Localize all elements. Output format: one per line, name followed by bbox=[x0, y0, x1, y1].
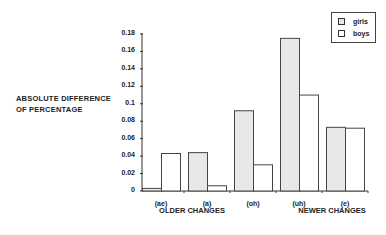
y-tick-label: 0.1 bbox=[105, 99, 135, 106]
legend-swatch-girls bbox=[338, 18, 345, 25]
y-tick-label: 0.18 bbox=[105, 29, 135, 36]
bar-boys bbox=[254, 165, 273, 191]
bar-girls bbox=[327, 127, 346, 191]
y-tick-label: 0.02 bbox=[105, 169, 135, 176]
y-tick-label: 0.08 bbox=[105, 116, 135, 123]
y-tick-label: 0.14 bbox=[105, 64, 135, 71]
group-label-older: OLDER CHANGES bbox=[132, 206, 252, 215]
legend-label-girls: girls bbox=[353, 18, 368, 25]
y-tick-label: 0.16 bbox=[105, 46, 135, 53]
bar-boys bbox=[346, 128, 365, 191]
legend-item-boys: boys bbox=[338, 30, 369, 37]
y-tick-label: 0.04 bbox=[105, 151, 135, 158]
bar-girls bbox=[281, 38, 300, 191]
group-label-newer: NEWER CHANGES bbox=[272, 206, 386, 215]
bar-girls bbox=[143, 188, 162, 191]
legend: girls boys bbox=[331, 12, 376, 43]
bar-boys bbox=[208, 186, 227, 191]
bar-girls bbox=[235, 111, 254, 191]
y-tick-label: 0.12 bbox=[105, 81, 135, 88]
y-tick-label: 0 bbox=[105, 186, 135, 193]
legend-swatch-boys bbox=[338, 30, 345, 37]
y-tick-label: 0.06 bbox=[105, 134, 135, 141]
legend-item-girls: girls bbox=[338, 18, 368, 25]
bar-girls bbox=[189, 153, 208, 191]
bar-boys bbox=[162, 153, 181, 191]
bar-boys bbox=[300, 95, 319, 191]
legend-label-boys: boys bbox=[353, 30, 369, 37]
